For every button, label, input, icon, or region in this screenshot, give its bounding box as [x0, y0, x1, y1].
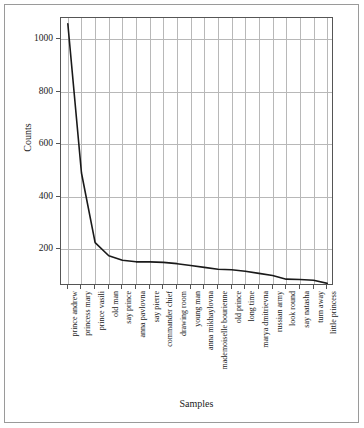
- series-polyline: [68, 24, 327, 284]
- x-tick-mark: [285, 285, 286, 289]
- line-series: [61, 18, 333, 285]
- y-tick-mark: [56, 196, 60, 197]
- y-tick-mark: [56, 38, 60, 39]
- x-tick-label: prince vasili: [97, 291, 106, 330]
- x-tick-label: marya dmitrievna: [261, 291, 270, 348]
- x-tick-mark: [135, 285, 136, 289]
- x-tick-mark: [231, 285, 232, 289]
- x-tick-mark: [190, 285, 191, 289]
- x-tick-mark: [149, 285, 150, 289]
- x-tick-mark: [313, 285, 314, 289]
- y-tick-label: 600: [39, 138, 53, 148]
- y-tick-label: 400: [39, 191, 53, 201]
- x-tick-mark: [121, 285, 122, 289]
- x-tick-label: old man: [111, 291, 120, 317]
- x-tick-label: drawing room: [179, 291, 188, 336]
- x-tick-label: long time: [247, 291, 256, 321]
- x-tick-label: russian army: [275, 291, 284, 332]
- x-tick-label: princess mary: [83, 291, 92, 336]
- x-tick-label: say natasha: [302, 291, 311, 328]
- figure: Counts 2004006008001000 prince andrewpri…: [0, 0, 364, 428]
- y-tick-label: 200: [39, 243, 53, 253]
- x-tick-mark: [203, 285, 204, 289]
- x-tick-label: mademoiselle bourienne: [220, 291, 229, 369]
- x-tick-label: prince andrew: [70, 291, 79, 337]
- x-tick-mark: [217, 285, 218, 289]
- x-tick-mark: [80, 285, 81, 289]
- x-tick-label: say prince: [124, 291, 133, 324]
- x-tick-mark: [258, 285, 259, 289]
- y-tick-mark: [56, 248, 60, 249]
- x-tick-mark: [162, 285, 163, 289]
- x-tick-mark: [108, 285, 109, 289]
- x-tick-mark: [67, 285, 68, 289]
- x-tick-mark: [326, 285, 327, 289]
- x-tick-label: say pierre: [152, 291, 161, 322]
- x-tick-label: look round: [288, 291, 297, 326]
- x-tick-mark: [244, 285, 245, 289]
- y-tick-mark: [56, 143, 60, 144]
- x-tick-label: anna pavlovna: [138, 291, 147, 337]
- x-tick-mark: [176, 285, 177, 289]
- x-tick-label: little princess: [329, 291, 338, 334]
- x-tick-label: old prince: [234, 291, 243, 323]
- x-tick-label: anna mikhaylovna: [206, 291, 215, 350]
- x-axis-title: Samples: [60, 398, 333, 409]
- x-tick-mark: [94, 285, 95, 289]
- y-axis-tick-labels: 2004006008001000: [0, 0, 53, 428]
- y-tick-label: 800: [39, 86, 53, 96]
- plot-area: [60, 17, 333, 285]
- x-tick-label: turn away: [316, 291, 325, 323]
- x-tick-mark: [299, 285, 300, 289]
- y-tick-label: 1000: [34, 33, 53, 43]
- y-tick-mark: [56, 91, 60, 92]
- x-tick-label: commander chief: [165, 291, 174, 347]
- x-tick-mark: [272, 285, 273, 289]
- x-tick-label: young man: [193, 291, 202, 327]
